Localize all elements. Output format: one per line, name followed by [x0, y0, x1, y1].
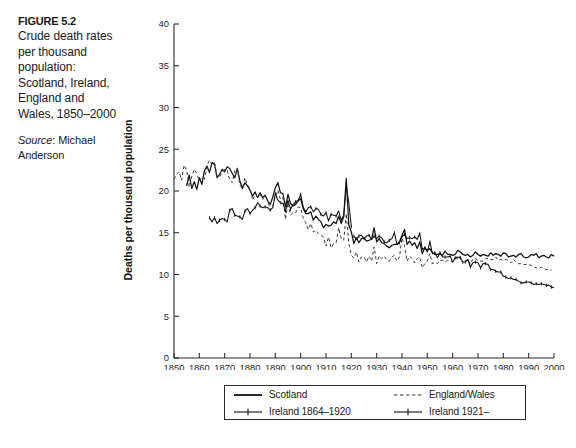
legend-label-ireland-1864-1920: Ireland 1864–1920	[269, 406, 351, 417]
x-tick-label: 1900	[290, 362, 311, 371]
legend-label-scotland: Scotland	[269, 389, 307, 400]
x-axis-ticks: 1850186018701880189019001910192019301940…	[164, 353, 565, 370]
legend-item-ireland-1864-1920: Ireland 1864–1920	[233, 406, 393, 417]
x-tick-label: 2000	[544, 362, 565, 371]
x-tick-label: 1910	[316, 362, 337, 371]
legend-label-ireland-1921: Ireland 1921–	[429, 406, 489, 417]
y-tick-label: 30	[159, 102, 169, 113]
y-tick-label: 35	[159, 60, 169, 71]
legend-label-england-wales: England/Wales	[429, 389, 495, 400]
x-tick-label: 1960	[442, 362, 463, 371]
source-label: Source	[18, 134, 52, 146]
x-tick-label: 1850	[164, 362, 185, 371]
x-tick-label: 1980	[493, 362, 514, 371]
y-axis-title-group: Deaths per thousand population	[122, 119, 134, 280]
figure-caption-text: Crude death rates per thousand populatio…	[18, 29, 118, 122]
figure-source: Source: Michael Anderson	[18, 133, 118, 163]
legend-grid: Scotland England/Wales Ireland 1864–1920	[225, 386, 525, 419]
series-line	[187, 163, 554, 258]
y-tick-label: 15	[159, 227, 169, 238]
legend-item-scotland: Scotland	[233, 389, 393, 400]
y-tick-label: 20	[159, 185, 169, 196]
legend-item-england-wales: England/Wales	[393, 389, 535, 400]
x-tick-label: 1940	[392, 362, 413, 371]
y-tick-label: 5	[164, 311, 169, 322]
x-tick-label: 1870	[214, 362, 235, 371]
x-tick-label: 1860	[189, 362, 210, 371]
x-tick-label: 1920	[341, 362, 362, 371]
y-axis-ticks: 0510152025303540	[159, 18, 179, 363]
x-tick-label: 1950	[417, 362, 438, 371]
x-tick-label: 1890	[265, 362, 286, 371]
y-tick-label: 25	[159, 144, 169, 155]
line-chart: Deaths per thousand population 051015202…	[118, 10, 568, 370]
figure-caption-block: FIGURE 5.2 Crude death rates per thousan…	[18, 14, 118, 163]
x-tick-label: 1970	[468, 362, 489, 371]
y-tick-label: 40	[159, 18, 169, 29]
chart-series-group	[174, 160, 554, 289]
y-axis-title: Deaths per thousand population	[122, 119, 134, 280]
y-tick-label: 10	[159, 269, 169, 280]
legend-item-ireland-1921: Ireland 1921–	[393, 406, 535, 417]
dashed-line-icon	[393, 390, 423, 400]
tick-line-icon	[233, 407, 263, 417]
x-tick-label: 1880	[240, 362, 261, 371]
tick-line-icon	[393, 407, 423, 417]
figure-number: FIGURE 5.2	[18, 14, 118, 28]
x-tick-label: 1990	[518, 362, 539, 371]
chart-container: Deaths per thousand population 051015202…	[118, 10, 568, 370]
chart-legend: Scotland England/Wales Ireland 1864–1920	[224, 385, 526, 420]
solid-line-icon	[233, 390, 263, 400]
x-tick-label: 1930	[366, 362, 387, 371]
